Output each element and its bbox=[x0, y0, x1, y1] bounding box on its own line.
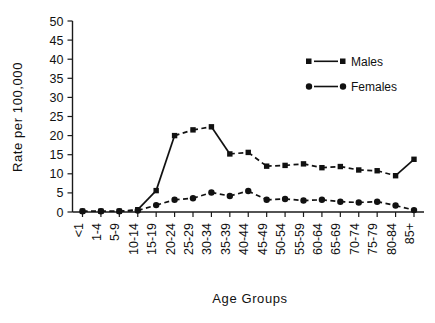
data-point-males bbox=[393, 173, 398, 178]
y-tick-label: 15 bbox=[50, 148, 64, 162]
y-tick-label: 0 bbox=[57, 206, 64, 220]
data-point-males bbox=[246, 150, 251, 155]
data-point-females bbox=[190, 195, 196, 201]
data-point-males bbox=[338, 164, 343, 169]
data-point-females bbox=[374, 198, 380, 204]
x-tick-label: 30-34 bbox=[200, 223, 214, 255]
data-point-males bbox=[153, 188, 158, 193]
data-point-females bbox=[153, 202, 159, 208]
data-point-males bbox=[411, 157, 416, 162]
y-axis-title: Rate per 100,000 bbox=[10, 62, 25, 172]
data-point-females bbox=[263, 197, 269, 203]
circle-marker-icon bbox=[340, 83, 346, 89]
x-tick-label: 70-74 bbox=[348, 223, 362, 255]
data-point-males bbox=[264, 163, 269, 168]
x-axis-title: Age Groups bbox=[212, 291, 287, 306]
x-tick-label: <1 bbox=[72, 223, 86, 237]
data-point-males bbox=[209, 124, 214, 129]
data-point-females bbox=[227, 193, 233, 199]
x-tick-label: 10-14 bbox=[127, 223, 141, 255]
data-point-females bbox=[300, 197, 306, 203]
data-point-females bbox=[337, 198, 343, 204]
data-point-females bbox=[116, 208, 122, 214]
x-tick-label: 85+ bbox=[403, 223, 417, 244]
data-point-males bbox=[356, 167, 361, 172]
square-marker-icon bbox=[306, 59, 312, 65]
x-tick-label: 55-59 bbox=[293, 223, 307, 255]
x-tick-label: 60-64 bbox=[311, 223, 325, 255]
y-tick-label: 5 bbox=[57, 186, 64, 200]
data-point-females bbox=[411, 207, 417, 213]
x-tick-label: 45-49 bbox=[256, 223, 270, 255]
x-tick-label: 15-19 bbox=[145, 223, 159, 255]
y-tick-label: 20 bbox=[50, 129, 64, 143]
data-point-males bbox=[227, 151, 232, 156]
x-tick-label: 40-44 bbox=[237, 223, 251, 255]
y-tick-label: 50 bbox=[50, 15, 64, 29]
data-point-females bbox=[208, 189, 214, 195]
x-tick-label: 35-39 bbox=[219, 223, 233, 255]
y-tick-label: 40 bbox=[50, 53, 64, 67]
data-point-females bbox=[98, 208, 104, 214]
data-point-females bbox=[245, 188, 251, 194]
x-tick-label: 65-69 bbox=[329, 223, 343, 255]
y-tick-label: 10 bbox=[50, 167, 64, 181]
legend-label-females: Females bbox=[351, 80, 397, 94]
y-tick-label: 45 bbox=[50, 34, 64, 48]
circle-marker-icon bbox=[306, 83, 312, 89]
data-point-females bbox=[392, 202, 398, 208]
data-point-males bbox=[172, 133, 177, 138]
data-point-males bbox=[282, 163, 287, 168]
data-point-females bbox=[282, 196, 288, 202]
data-point-females bbox=[79, 208, 85, 214]
data-point-males bbox=[374, 168, 379, 173]
data-point-females bbox=[356, 199, 362, 205]
data-point-males bbox=[190, 127, 195, 132]
data-point-males bbox=[319, 165, 324, 170]
x-tick-label: 25-29 bbox=[182, 223, 196, 255]
data-point-females bbox=[171, 197, 177, 203]
square-marker-icon bbox=[340, 59, 346, 65]
x-tick-label: 80-84 bbox=[385, 223, 399, 255]
x-tick-label: 75-79 bbox=[366, 223, 380, 255]
data-point-females bbox=[319, 197, 325, 203]
line-chart-canvas: 05101520253035404550 <11-45-910-1415-192… bbox=[0, 0, 435, 323]
x-tick-label: 5-9 bbox=[108, 223, 122, 241]
legend-label-males: Males bbox=[351, 55, 383, 69]
y-tick-label: 35 bbox=[50, 72, 64, 86]
x-tick-label: 50-54 bbox=[274, 223, 288, 255]
chart-figure: 05101520253035404550 <11-45-910-1415-192… bbox=[0, 0, 435, 323]
chart-background bbox=[0, 0, 435, 323]
data-point-females bbox=[135, 207, 141, 213]
x-tick-label: 20-24 bbox=[164, 223, 178, 255]
y-tick-label: 25 bbox=[50, 110, 64, 124]
data-point-males bbox=[301, 161, 306, 166]
y-tick-label: 30 bbox=[50, 91, 64, 105]
x-tick-label: 1-4 bbox=[90, 223, 104, 241]
